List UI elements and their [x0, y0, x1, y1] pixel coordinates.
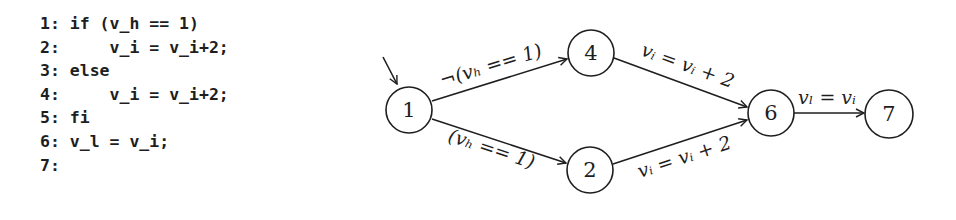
node-label: 2 — [583, 158, 596, 182]
node-1: 1 — [386, 87, 432, 133]
edge-label-2-6: vᵢ = vᵢ + 2 — [634, 131, 733, 182]
edge-label-4-6: vᵢ = vᵢ + 2 — [639, 38, 738, 92]
node-6: 6 — [748, 90, 794, 136]
node-2: 2 — [567, 147, 613, 193]
node-label: 7 — [882, 102, 895, 126]
node-4: 4 — [568, 30, 614, 76]
node-7: 7 — [865, 90, 913, 138]
node-label: 1 — [402, 98, 415, 122]
start-arrow — [383, 57, 397, 84]
control-flow-graph: ¬(vₕ == 1) (vₕ == 1) vᵢ = vᵢ + 2 vᵢ = vᵢ… — [0, 0, 956, 220]
node-label: 6 — [764, 101, 777, 125]
node-label: 4 — [584, 41, 597, 65]
edge-label-1-2: (vₕ == 1) — [446, 124, 538, 173]
edge-label-6-7: vₗ = vᵢ — [798, 86, 856, 108]
